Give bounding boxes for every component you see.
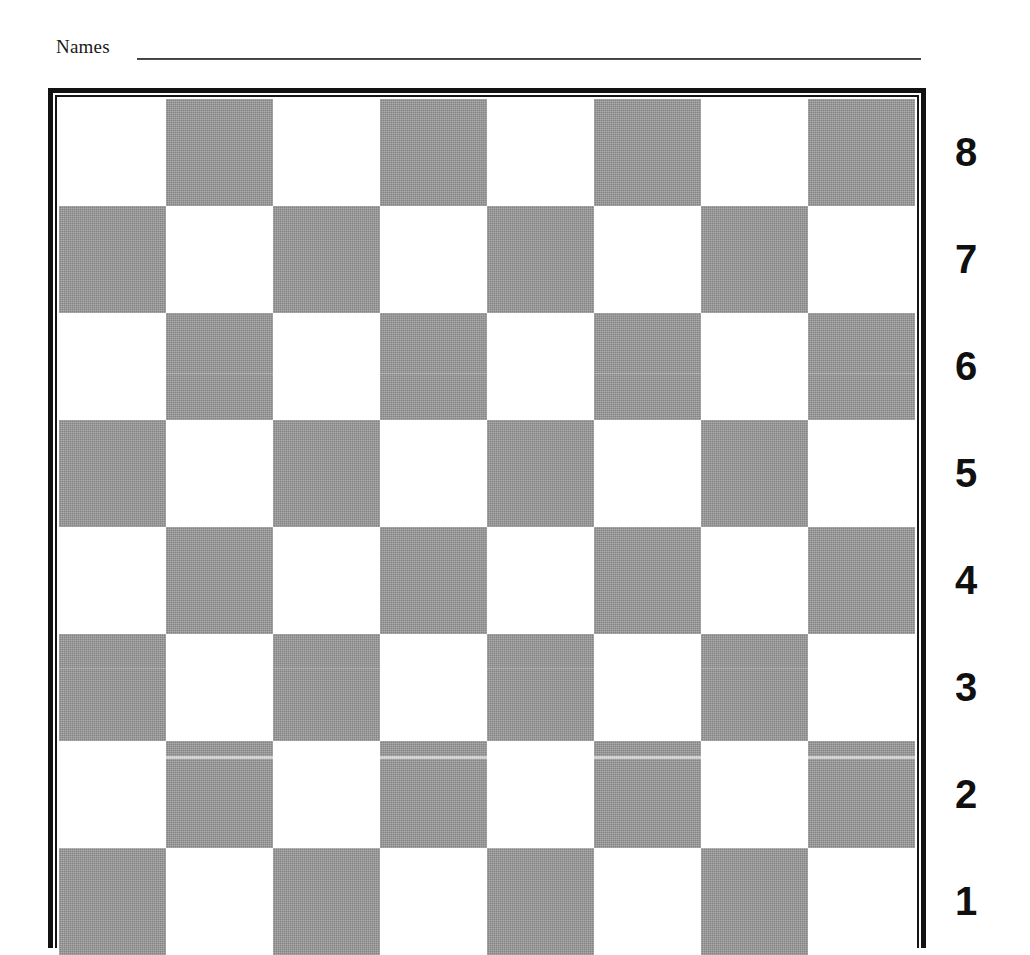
- board-square-c7[interactable]: [273, 206, 380, 313]
- board-square-d5[interactable]: [380, 420, 487, 527]
- chessboard-diagram: [48, 88, 926, 948]
- board-square-d7[interactable]: [380, 206, 487, 313]
- board-square-f5[interactable]: [594, 420, 701, 527]
- board-square-a6[interactable]: [59, 313, 166, 420]
- board-square-c6[interactable]: [273, 313, 380, 420]
- board-square-a5[interactable]: [59, 420, 166, 527]
- board-square-f4[interactable]: [594, 527, 701, 634]
- board-square-f6[interactable]: [594, 313, 701, 420]
- board-square-g6[interactable]: [701, 313, 808, 420]
- board-square-f3[interactable]: [594, 634, 701, 741]
- board-square-h7[interactable]: [808, 206, 915, 313]
- board-square-c5[interactable]: [273, 420, 380, 527]
- board-square-d8[interactable]: [380, 99, 487, 206]
- rank-label-column: 87654321: [945, 99, 1005, 955]
- board-square-e3[interactable]: [487, 634, 594, 741]
- board-square-c8[interactable]: [273, 99, 380, 206]
- board-square-b4[interactable]: [166, 527, 273, 634]
- board-square-c3[interactable]: [273, 634, 380, 741]
- rank-label-3: 3: [945, 634, 987, 741]
- board-square-b2[interactable]: [166, 741, 273, 848]
- board-squares-grid[interactable]: [59, 99, 915, 955]
- board-square-b7[interactable]: [166, 206, 273, 313]
- board-square-g8[interactable]: [701, 99, 808, 206]
- rank-label-2: 2: [945, 741, 987, 848]
- board-square-d3[interactable]: [380, 634, 487, 741]
- board-square-h4[interactable]: [808, 527, 915, 634]
- board-square-a7[interactable]: [59, 206, 166, 313]
- board-square-e5[interactable]: [487, 420, 594, 527]
- board-square-g5[interactable]: [701, 420, 808, 527]
- board-square-g4[interactable]: [701, 527, 808, 634]
- board-square-a1[interactable]: [59, 848, 166, 955]
- board-square-g3[interactable]: [701, 634, 808, 741]
- board-square-b8[interactable]: [166, 99, 273, 206]
- board-square-h3[interactable]: [808, 634, 915, 741]
- board-square-b6[interactable]: [166, 313, 273, 420]
- board-square-b5[interactable]: [166, 420, 273, 527]
- rank-label-5: 5: [945, 420, 987, 527]
- board-square-c2[interactable]: [273, 741, 380, 848]
- board-square-c4[interactable]: [273, 527, 380, 634]
- board-square-e8[interactable]: [487, 99, 594, 206]
- board-square-e4[interactable]: [487, 527, 594, 634]
- board-square-e7[interactable]: [487, 206, 594, 313]
- board-square-d1[interactable]: [380, 848, 487, 955]
- rank-label-1: 1: [945, 848, 987, 955]
- board-square-e1[interactable]: [487, 848, 594, 955]
- board-square-b3[interactable]: [166, 634, 273, 741]
- rank-label-7: 7: [945, 206, 987, 313]
- rank-label-6: 6: [945, 313, 987, 420]
- board-square-e2[interactable]: [487, 741, 594, 848]
- board-square-a8[interactable]: [59, 99, 166, 206]
- board-square-f2[interactable]: [594, 741, 701, 848]
- board-square-a2[interactable]: [59, 741, 166, 848]
- board-square-d6[interactable]: [380, 313, 487, 420]
- board-square-a3[interactable]: [59, 634, 166, 741]
- board-square-c1[interactable]: [273, 848, 380, 955]
- board-square-h1[interactable]: [808, 848, 915, 955]
- board-square-e6[interactable]: [487, 313, 594, 420]
- names-label: Names: [56, 36, 110, 58]
- board-square-d2[interactable]: [380, 741, 487, 848]
- board-square-h8[interactable]: [808, 99, 915, 206]
- board-square-f1[interactable]: [594, 848, 701, 955]
- board-square-a4[interactable]: [59, 527, 166, 634]
- board-square-g2[interactable]: [701, 741, 808, 848]
- names-field-row: Names: [0, 36, 1030, 66]
- board-square-d4[interactable]: [380, 527, 487, 634]
- board-square-h2[interactable]: [808, 741, 915, 848]
- board-square-f8[interactable]: [594, 99, 701, 206]
- board-square-b1[interactable]: [166, 848, 273, 955]
- board-square-g1[interactable]: [701, 848, 808, 955]
- names-write-in-rule[interactable]: [137, 58, 921, 60]
- rank-label-4: 4: [945, 527, 987, 634]
- board-square-h6[interactable]: [808, 313, 915, 420]
- board-square-g7[interactable]: [701, 206, 808, 313]
- board-square-h5[interactable]: [808, 420, 915, 527]
- board-square-f7[interactable]: [594, 206, 701, 313]
- rank-label-8: 8: [945, 99, 987, 206]
